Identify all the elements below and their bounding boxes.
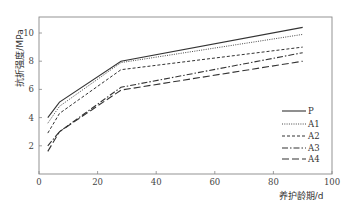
series-line-a1	[48, 34, 303, 123]
y-tick-label: 2	[29, 141, 34, 151]
x-tick-label: 60	[209, 177, 220, 187]
legend-label-p: P	[308, 106, 314, 116]
plot-border	[39, 17, 332, 174]
series-line-a3	[48, 53, 303, 146]
legend: PA1A2A3A4	[282, 106, 320, 164]
y-axis-label: 抗折强度/MPa	[14, 29, 25, 86]
plot-frame	[39, 17, 332, 174]
x-tick-label: 0	[36, 177, 41, 187]
series-line-a2	[48, 47, 303, 133]
legend-label-a4: A4	[307, 154, 320, 164]
legend-label-a1: A1	[307, 119, 320, 129]
x-tick-label: 40	[151, 177, 162, 187]
x-tick-label: 20	[92, 177, 103, 187]
x-tick-label: 80	[268, 177, 279, 187]
legend-label-a3: A3	[307, 143, 320, 153]
series-line-p	[48, 27, 303, 117]
y-tick-label: 4	[29, 113, 34, 123]
y-tick-label: 8	[29, 56, 34, 66]
data-series	[48, 27, 303, 151]
legend-label-a2: A2	[307, 131, 320, 141]
flexural-strength-chart: 020406080100246810 PA1A2A3A4 养护龄期/d 抗折强度…	[0, 0, 353, 213]
x-tick-label: 100	[324, 177, 340, 187]
x-axis-label: 养护龄期/d	[279, 190, 324, 201]
y-tick-label: 6	[29, 84, 34, 94]
series-line-a4	[48, 61, 303, 151]
axis-ticks: 020406080100246810	[23, 28, 340, 187]
